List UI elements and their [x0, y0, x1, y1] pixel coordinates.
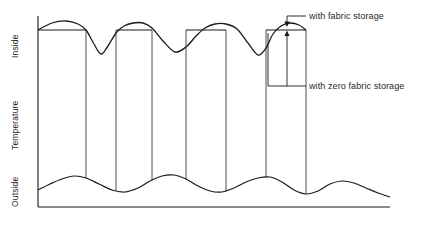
annotation-with-fabric-storage: with fabric storage — [309, 11, 384, 21]
outside-temperature-curve — [38, 175, 390, 197]
temperature-fabric-storage-chart — [0, 0, 435, 232]
y-axis-label-outside: Outside — [10, 177, 20, 207]
zero-fabric-storage-arrowhead — [284, 31, 289, 37]
chart-axes — [38, 16, 390, 207]
connector-lines-group — [86, 30, 306, 194]
annotation-with-zero-fabric-storage: with zero fabric storage — [309, 81, 404, 91]
y-axis-title: Temperature — [10, 101, 20, 150]
annotation-leaders-group — [268, 16, 306, 86]
y-axis-label-inside: Inside — [10, 34, 20, 58]
